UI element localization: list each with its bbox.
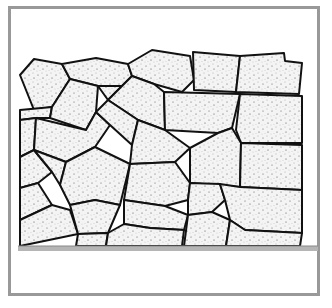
stone-wall-illustration — [0, 0, 332, 308]
stone — [188, 183, 225, 215]
stone — [236, 53, 302, 94]
ground-line — [18, 246, 318, 251]
stone — [240, 143, 302, 190]
stone — [76, 233, 108, 246]
stone — [184, 212, 230, 246]
stone — [236, 94, 302, 143]
stone — [164, 92, 240, 133]
stone — [190, 128, 241, 187]
stone — [193, 52, 240, 92]
stone — [70, 200, 120, 234]
stone — [124, 162, 190, 206]
stones-group — [20, 50, 302, 246]
